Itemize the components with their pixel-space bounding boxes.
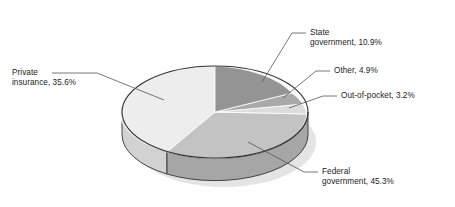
slice-label-out-of-pocket: Out-of-pocket, 3.2% (341, 91, 453, 101)
slice-label-private-insurance: Private insurance, 35.6% (12, 68, 102, 89)
pie-chart-figure: Private insurance, 35.6% State governmen… (0, 0, 455, 207)
slice-label-federal-government: Federal government, 45.3% (322, 167, 452, 188)
slice-label-other: Other, 4.9% (334, 66, 444, 76)
slice-label-state-government: State government, 10.9% (310, 28, 440, 49)
